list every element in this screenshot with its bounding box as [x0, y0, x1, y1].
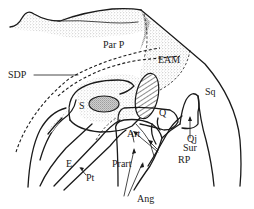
quadratojugal-outline [180, 94, 199, 129]
label-q: Q [159, 107, 167, 118]
articular-region [116, 116, 182, 190]
label-eam: EAM [158, 54, 180, 65]
label-rp: RP [178, 154, 191, 165]
label-sur: Sur [183, 142, 198, 153]
parietal-region [8, 9, 146, 38]
label-ang: Ang [137, 193, 154, 204]
label-s: S [79, 100, 85, 111]
label-sq: Sq [205, 86, 216, 97]
label-e: E [66, 158, 72, 169]
jugal-bar [198, 96, 214, 186]
anatomical-diagram: Par P EAM SDP S Sq Q Qj Art Sur RP Prart… [0, 0, 254, 209]
label-par-p: Par P [103, 39, 125, 50]
label-art: Art [127, 128, 141, 139]
label-sdp: SDP [8, 69, 27, 80]
label-prart: Prart [112, 158, 132, 169]
label-pt: Pt [86, 172, 95, 183]
